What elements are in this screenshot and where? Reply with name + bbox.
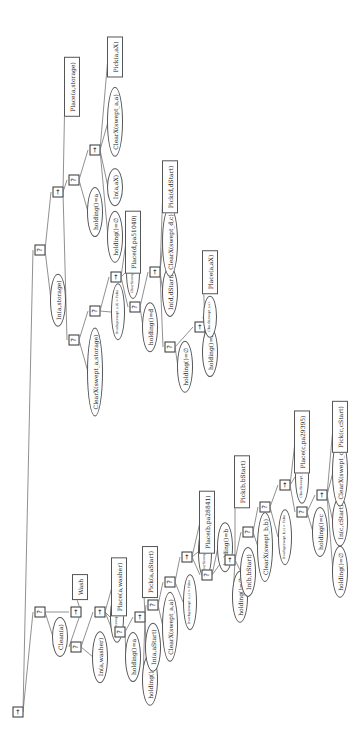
action-node: Pick(a,aX) xyxy=(107,37,123,78)
tree-edge xyxy=(140,272,148,307)
sequence-node: → xyxy=(71,607,82,618)
tree-edge xyxy=(100,311,111,312)
action-node: Place(a,storage) xyxy=(64,57,80,117)
action-node: Place(a,washer) xyxy=(111,558,127,617)
fallback-node: ? xyxy=(69,175,80,186)
action-node: Pick(a,aStart) xyxy=(142,546,158,598)
tree-edge xyxy=(79,150,88,180)
condition-node: holding()=∅ xyxy=(177,341,193,393)
action-node: Pick(d,dStart) xyxy=(162,161,178,214)
tree-edge xyxy=(270,485,278,507)
sequence-node: → xyxy=(13,707,24,718)
action-node: Place(a,aX) xyxy=(202,250,218,294)
sequence-node: → xyxy=(182,552,193,563)
sequence-node: → xyxy=(90,145,101,156)
fallback-node: ? xyxy=(71,642,82,653)
sequence-node: → xyxy=(317,490,328,501)
fallback-node: ? xyxy=(69,335,80,346)
condition-node: holding()=a xyxy=(87,187,103,237)
behavior-tree-diagram: →?→?Clean(a)Wash?In(a,washer)→ClearX(swe… xyxy=(0,0,359,747)
sequence-node: → xyxy=(225,555,236,566)
tree-edge xyxy=(175,582,183,602)
tree-edge xyxy=(81,612,93,647)
fallback-node: ? xyxy=(35,607,46,618)
condition-node: holding()=∅ xyxy=(332,546,348,598)
condition-node: In(a,aX) xyxy=(107,168,123,206)
tree-edge xyxy=(100,277,109,311)
tree-edge xyxy=(125,617,133,632)
fallback-node: ? xyxy=(35,245,46,256)
condition-node: ClearX(swept_a,storage) xyxy=(87,328,103,417)
sequence-node: → xyxy=(95,607,106,618)
fallback-node: ? xyxy=(243,527,254,538)
action-node: Place(b,pa28841) xyxy=(199,490,215,553)
fallback-node: ? xyxy=(90,306,101,317)
condition-node: holding()=∅ xyxy=(107,211,123,263)
fallback-node: ? xyxy=(130,302,141,313)
condition-node: ClearX(swept_d,c) xyxy=(162,207,178,277)
sequence-node: → xyxy=(150,267,161,278)
action-node: Place(d,pa51040) xyxy=(125,210,141,273)
action-node: Pick(c,cStart) xyxy=(332,401,348,453)
condition-node: In(a,washer) xyxy=(92,631,108,683)
tree-edge xyxy=(307,495,315,512)
fallback-node: ? xyxy=(202,570,213,581)
fallback-node: ? xyxy=(115,627,126,638)
condition-node: holding()=d xyxy=(142,302,158,352)
sequence-node: → xyxy=(280,480,291,491)
condition-node: ClearX(swept_a,a) xyxy=(203,296,217,338)
sequence-node: → xyxy=(111,272,122,283)
condition-node: Clean(a) xyxy=(52,617,68,657)
tree-edge xyxy=(79,311,88,340)
condition-node: holding()=c xyxy=(312,507,328,557)
tree-edge xyxy=(158,582,163,605)
action-node: Wash xyxy=(72,574,88,600)
fallback-node: ? xyxy=(297,507,308,518)
condition-node: ClearX(swept_b,b) xyxy=(257,512,273,582)
tree-edge xyxy=(23,612,33,712)
action-node: Place(c,pa29395) xyxy=(294,411,310,474)
sequence-node: → xyxy=(53,187,64,198)
tree-edge xyxy=(235,532,241,560)
condition-node: holding()=a xyxy=(125,632,141,682)
fallback-node: ? xyxy=(165,342,176,353)
fallback-node: ? xyxy=(148,600,159,611)
sequence-node: → xyxy=(135,612,146,623)
tree-edge xyxy=(63,180,67,192)
tree-edge xyxy=(45,192,51,250)
condition-node: In(a,aStart) xyxy=(145,622,161,671)
condition-node: Overlap(swept_b,c) = False xyxy=(278,509,292,565)
fallback-node: ? xyxy=(165,577,176,588)
condition-node: ClearX(swept_a,a) xyxy=(107,87,123,157)
fallback-node: ? xyxy=(260,502,271,513)
condition-node: Overlap(swept_a,d) = False xyxy=(111,284,125,341)
tree-edge xyxy=(23,250,33,712)
tree-edge xyxy=(290,485,295,512)
condition-node: In(a,storage) xyxy=(50,273,66,326)
condition-node: ClearX(swept_a,a) xyxy=(162,592,178,662)
condition-node: In(b,bStart) xyxy=(240,547,256,597)
action-node: Pick(b,bStart) xyxy=(234,456,250,509)
tree-edge xyxy=(175,557,180,582)
condition-node: Overlap(swept_a,c) = False xyxy=(183,574,197,630)
